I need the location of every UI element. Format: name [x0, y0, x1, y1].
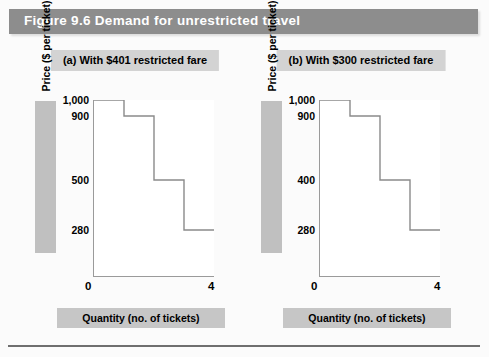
figure-title: Figure 9.6 Demand for unrestricted trave… — [24, 13, 300, 28]
panel-a-xtick-0: 0 — [85, 280, 91, 292]
panel-b-title: (b) With $300 restricted fare — [277, 50, 446, 71]
panel-a-ytick-280: 280 — [71, 224, 89, 236]
panel-a-plot-area — [93, 100, 214, 277]
panel-b-plot-area — [319, 100, 440, 277]
panel-a-ytick-1000: 1,000 — [63, 94, 89, 106]
panel-a-ytick-500: 500 — [71, 174, 89, 186]
panel-b-ytick-900: 900 — [297, 110, 315, 122]
panel-a-ytick-group: 1,000 900 500 280 — [22, 100, 89, 276]
panel-a-xtick-4: 4 — [208, 280, 214, 292]
panel-b-ytick-280: 280 — [297, 224, 315, 236]
panel-a-xlabel: Quantity (no. of tickets) — [57, 308, 225, 328]
panel-b-ytick-group: 1,000 900 400 280 — [248, 100, 315, 276]
panel-b: (b) With $300 restricted fare Price ($ p… — [248, 44, 474, 344]
panel-b-ytick-400: 400 — [297, 174, 315, 186]
panel-b-xlabel: Quantity (no. of tickets) — [283, 308, 451, 328]
panel-b-ytick-1000: 1,000 — [289, 94, 315, 106]
panel-b-xtick-0: 0 — [311, 280, 317, 292]
figure-header-bar: Figure 9.6 Demand for unrestricted trave… — [9, 9, 478, 34]
panel-a-step-curve — [94, 100, 214, 276]
figure-container: Figure 9.6 Demand for unrestricted trave… — [0, 0, 489, 357]
panel-b-xtick-4: 4 — [434, 280, 440, 292]
panel-a: (a) With $401 restricted fare Price ($ p… — [22, 44, 248, 344]
panel-a-ytick-900: 900 — [71, 110, 89, 122]
figure-bottom-rule — [8, 345, 480, 347]
panel-b-step-curve — [320, 100, 440, 276]
panel-a-title: (a) With $401 restricted fare — [51, 50, 219, 71]
